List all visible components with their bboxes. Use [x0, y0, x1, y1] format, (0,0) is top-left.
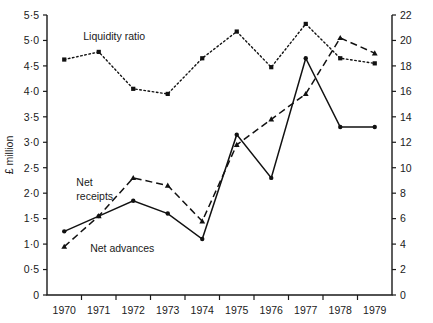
- y-axis-tick-label-left: 1·0: [24, 238, 39, 250]
- data-point: [269, 65, 273, 69]
- data-point: [166, 211, 170, 215]
- y-axis-tick-label-left: 5·0: [24, 34, 39, 46]
- data-point: [373, 125, 377, 129]
- series-annotation-2: receipts: [76, 190, 113, 202]
- series-annotation-1: Net: [76, 176, 92, 188]
- data-point: [130, 175, 136, 180]
- line-chart: 00·51·01·52·02·53·03·54·04·55·05·5024681…: [0, 0, 433, 323]
- y-axis-tick-label-right: 8: [400, 187, 406, 199]
- y-axis-tick-label-right: 6: [400, 212, 406, 224]
- y-axis-tick-label-right: 22: [400, 9, 412, 21]
- y-axis-tick-label-right: 18: [400, 60, 412, 72]
- data-point: [166, 92, 170, 96]
- y-axis-tick-label-left: 2·5: [24, 162, 39, 174]
- data-point: [373, 61, 377, 65]
- y-axis-tick-label-right: 4: [400, 238, 406, 250]
- y-axis-tick-label-left: 4·0: [24, 85, 39, 97]
- y-axis-tick-label-left: 2·0: [24, 187, 39, 199]
- data-point: [304, 56, 308, 60]
- data-point: [304, 22, 308, 26]
- data-point: [269, 176, 273, 180]
- x-axis-tick-label: 1971: [87, 304, 111, 316]
- data-point: [131, 199, 135, 203]
- data-point: [62, 229, 66, 233]
- series-group: [61, 22, 377, 249]
- chart-container: 00·51·01·52·02·53·03·54·04·55·05·5024681…: [0, 0, 433, 323]
- x-axis-tick-label: 1976: [260, 304, 284, 316]
- x-axis-tick-label: 1970: [53, 304, 77, 316]
- data-point: [97, 214, 101, 218]
- y-axis-tick-label-right: 16: [400, 85, 412, 97]
- x-axis-tick-label: 1972: [122, 304, 146, 316]
- y-axis-tick-label-right: 14: [400, 111, 412, 123]
- data-point: [235, 29, 239, 33]
- y-axis-tick-label-left: 0: [33, 289, 39, 301]
- y-axis-tick-label-left: 5·5: [24, 9, 39, 21]
- data-point: [131, 87, 135, 91]
- series-annotation-0: Liquidity ratio: [83, 30, 145, 42]
- x-axis-tick-label: 1978: [329, 304, 353, 316]
- data-point: [97, 50, 101, 54]
- data-point: [165, 183, 171, 188]
- data-point: [235, 132, 239, 136]
- data-point: [338, 125, 342, 129]
- x-axis-tick-label: 1973: [156, 304, 180, 316]
- x-axis-tick-label: 1974: [191, 304, 215, 316]
- y-axis-tick-label-left: 3·0: [24, 136, 39, 148]
- x-axis-tick-label: 1977: [294, 304, 318, 316]
- series-net-receipts: [61, 35, 377, 249]
- x-axis-tick-label: 1979: [363, 304, 387, 316]
- y-axis-tick-label-right: 2: [400, 263, 406, 275]
- y-axis-tick-label-right: 0: [400, 289, 406, 301]
- y-axis-tick-label-right: 10: [400, 162, 412, 174]
- y-axis-tick-label-left: 4·5: [24, 60, 39, 72]
- series-line-2: [64, 58, 375, 239]
- data-point: [200, 56, 204, 60]
- y-axis-tick-label-left: 3·5: [24, 111, 39, 123]
- data-point: [338, 56, 342, 60]
- y-axis-tick-label-right: 20: [400, 34, 412, 46]
- y-axis-title: £ million: [3, 136, 15, 175]
- data-point: [62, 57, 66, 61]
- y-axis-tick-label-right: 12: [400, 136, 412, 148]
- series-annotation-3: Net advances: [90, 242, 154, 254]
- x-axis-tick-label: 1975: [225, 304, 249, 316]
- series-line-1: [64, 38, 375, 247]
- y-axis-tick-label-left: 1·5: [24, 212, 39, 224]
- series-net-advances: [62, 56, 377, 241]
- data-point: [200, 237, 204, 241]
- data-point: [337, 35, 343, 40]
- y-axis-tick-label-left: 0·5: [24, 263, 39, 275]
